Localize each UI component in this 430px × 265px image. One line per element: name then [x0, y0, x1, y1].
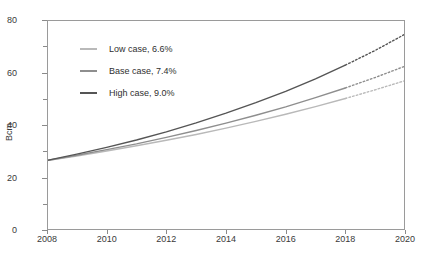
- line-chart-figure: Bcm 020406080 20082010201220142016201820…: [0, 0, 430, 265]
- legend-item[interactable]: Base case, 7.4%: [80, 60, 177, 82]
- legend-swatch: [80, 48, 97, 50]
- x-tick-label: 2016: [276, 234, 296, 244]
- x-tick-mark: [286, 230, 287, 234]
- series-line-forecast: [345, 66, 405, 88]
- x-tick-label: 2008: [37, 234, 57, 244]
- legend-item[interactable]: High case, 9.0%: [80, 82, 177, 104]
- y-tick-label: 40: [0, 120, 17, 130]
- y-tick-label: 0: [0, 225, 17, 235]
- legend-label: High case, 9.0%: [109, 88, 175, 98]
- x-tick-label: 2014: [216, 234, 236, 244]
- x-tick-label: 2010: [97, 234, 117, 244]
- legend-label: Base case, 7.4%: [109, 66, 177, 76]
- x-tick-mark: [166, 230, 167, 234]
- plot-frame-top: [47, 20, 405, 21]
- legend-item[interactable]: Low case, 6.6%: [80, 38, 177, 60]
- x-tick-mark: [107, 230, 108, 234]
- plot-frame-right: [404, 20, 405, 230]
- series-line-forecast: [345, 81, 405, 99]
- legend-swatch: [80, 70, 97, 72]
- x-tick-mark: [226, 230, 227, 234]
- plot-frame-left: [47, 20, 48, 230]
- x-tick-mark: [405, 230, 406, 234]
- y-tick-label: 80: [0, 15, 17, 25]
- y-tick-label: 20: [0, 173, 17, 183]
- y-tick-label: 60: [0, 68, 17, 78]
- x-tick-label: 2020: [395, 234, 415, 244]
- legend: Low case, 6.6%Base case, 7.4%High case, …: [80, 38, 177, 104]
- x-tick-mark: [47, 230, 48, 234]
- x-tick-label: 2018: [335, 234, 355, 244]
- x-tick-label: 2012: [156, 234, 176, 244]
- series-line-forecast: [345, 34, 405, 65]
- legend-label: Low case, 6.6%: [109, 44, 173, 54]
- legend-swatch: [80, 92, 97, 94]
- x-tick-mark: [345, 230, 346, 234]
- plot-frame-bottom: [47, 229, 405, 230]
